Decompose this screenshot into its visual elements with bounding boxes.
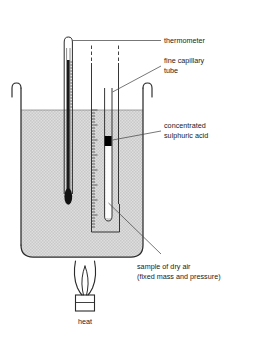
label-dry-air-line2: (fixed mass and pressure) xyxy=(137,272,221,281)
label-sulphuric-acid-line2: sulphuric acid xyxy=(164,131,208,140)
apparatus-diagram: thermometer fine capillary tube concentr… xyxy=(0,0,255,339)
mercury-column xyxy=(67,60,70,192)
water-bath xyxy=(20,110,144,258)
flame-outline-left xyxy=(74,261,82,295)
flame-inner-left xyxy=(82,266,85,295)
beaker-lip-left xyxy=(12,83,21,97)
label-heat: heat xyxy=(78,317,92,326)
sulphuric-acid-index xyxy=(105,136,112,146)
beaker-lip-right xyxy=(143,83,152,97)
label-fine-capillary-line2: tube xyxy=(164,66,178,75)
fine-capillary-tube xyxy=(105,88,112,221)
flame-outline-right xyxy=(88,261,96,295)
burner-barrel xyxy=(76,295,95,311)
bunsen-burner xyxy=(74,261,95,311)
label-sulphuric-acid-line1: concentrated xyxy=(164,121,206,130)
label-fine-capillary-line1: fine capillary xyxy=(164,56,205,65)
label-dry-air-line1: sample of dry air xyxy=(137,262,191,271)
label-thermometer: thermometer xyxy=(164,36,206,45)
diagram-canvas: thermometer fine capillary tube concentr… xyxy=(0,0,255,339)
leader-capillary xyxy=(113,66,162,92)
flame-inner-right xyxy=(85,266,88,295)
thermometer-bulb xyxy=(64,188,72,204)
trapped-air-column xyxy=(105,146,111,218)
